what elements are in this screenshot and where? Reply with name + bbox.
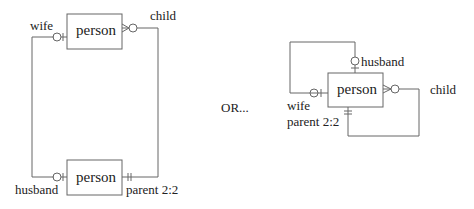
role-label-wife: wife xyxy=(30,19,53,32)
entity-name-right: person xyxy=(337,82,377,97)
crows-foot-icon xyxy=(383,85,391,89)
entity-name-top: person xyxy=(76,23,116,38)
optional-circle-icon xyxy=(53,173,61,181)
child-parent-relationship xyxy=(122,24,158,181)
role-label-parent: parent 2:2 xyxy=(126,183,178,196)
optional-circle-icon xyxy=(53,33,61,41)
role-label-wife-right: wife xyxy=(287,99,310,112)
or-separator: OR... xyxy=(221,101,249,114)
entity-name-bottom: person xyxy=(76,170,116,185)
wife-husband-relationship xyxy=(32,33,67,181)
optional-circle-icon xyxy=(391,85,399,93)
crows-foot-icon xyxy=(122,24,129,28)
role-label-parent-right: parent 2:2 xyxy=(287,115,339,128)
optional-circle-icon xyxy=(129,24,137,32)
role-label-husband-right: husband xyxy=(361,55,404,68)
optional-circle-icon xyxy=(351,57,359,65)
role-label-husband: husband xyxy=(15,183,58,196)
role-label-child-right: child xyxy=(430,83,456,96)
role-label-child: child xyxy=(150,9,176,22)
